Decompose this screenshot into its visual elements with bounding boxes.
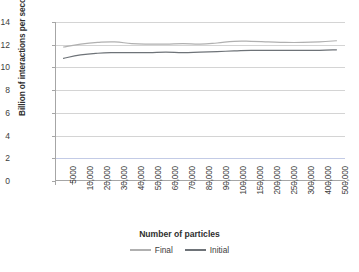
y-axis-title: Billion of interactions per second	[17, 0, 27, 132]
y-tick-mark-8	[52, 90, 55, 91]
y-tick-label-2: 2	[0, 153, 10, 163]
x-tick-label: 300,000	[306, 166, 316, 195]
x-tick-label: 40,000	[136, 166, 146, 190]
y-tick-mark-4	[52, 136, 55, 137]
x-tick-label: 80,000	[204, 166, 214, 190]
legend-item-final[interactable]: Final	[130, 245, 173, 255]
legend-item-initial[interactable]: Initial	[185, 245, 229, 255]
y-axis-line	[55, 22, 56, 181]
data-series-group	[55, 22, 345, 181]
legend-label: Final	[155, 245, 173, 255]
x-tick-label: 50,000	[153, 166, 163, 190]
y-tick-label-12: 12	[0, 40, 10, 50]
chart-legend: FinalInitial	[0, 245, 359, 255]
y-tick-label-8: 8	[0, 85, 10, 95]
y-tick-label-10: 10	[0, 62, 10, 72]
x-axis-line	[55, 180, 345, 181]
x-axis-title: Number of particles	[0, 229, 359, 239]
y-tick-mark-12	[52, 45, 55, 46]
legend-swatch-icon	[130, 249, 151, 251]
x-tick-label: 500,000	[340, 166, 350, 195]
series-line-final	[64, 41, 337, 47]
series-line-initial	[64, 50, 337, 59]
x-tick-label: 5000	[68, 166, 78, 184]
y-tick-mark-14	[52, 22, 55, 23]
y-tick-label-4: 4	[0, 131, 10, 141]
y-tick-mark-2	[52, 158, 55, 159]
x-tick-label: 30,000	[119, 166, 129, 190]
x-tick-label: 250,000	[289, 166, 299, 195]
x-tick-label: 400,000	[323, 166, 333, 195]
x-tick-label: 60,000	[170, 166, 180, 190]
x-tick-label: 100,000	[238, 166, 248, 195]
x-tick-mark	[55, 181, 56, 185]
y-tick-mark-10	[52, 67, 55, 68]
legend-label: Initial	[210, 245, 229, 255]
y-tick-label-0: 0	[0, 176, 10, 186]
x-tick-label: 200,000	[272, 166, 282, 195]
x-tick-label: 10,000	[85, 166, 95, 190]
legend-swatch-icon	[185, 249, 206, 251]
x-tick-label: 70,000	[187, 166, 197, 190]
x-tick-label: 20,000	[102, 166, 112, 190]
plot-area	[55, 22, 345, 181]
x-tick-label: 150,000	[255, 166, 265, 195]
y-tick-label-6: 6	[0, 108, 10, 118]
chart-container: Billion of interactions per second 02468…	[0, 0, 359, 272]
y-tick-label-14: 14	[0, 17, 10, 27]
x-tick-label: 90,000	[221, 166, 231, 190]
y-tick-mark-6	[52, 113, 55, 114]
